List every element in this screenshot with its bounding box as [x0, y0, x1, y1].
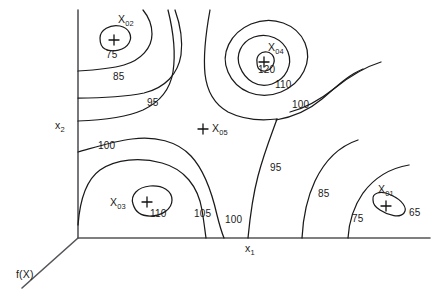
contour-label-100-bottom: 100: [225, 215, 242, 225]
x-axis-label: x1: [245, 243, 255, 257]
contour-105-x03: [78, 160, 206, 238]
contour-label-85-x02: 85: [113, 72, 125, 82]
marker-x01: [381, 201, 391, 211]
contour-label-95-x02: 95: [147, 98, 159, 108]
contour-label-100-x04: 100: [292, 100, 309, 110]
point-label-x02-sub: 02: [125, 19, 133, 28]
contour-label-75-right: 75: [352, 214, 364, 224]
marker-x03: [142, 197, 152, 207]
point-label-x04: X04: [268, 42, 284, 56]
x-axis-label-sub: 1: [250, 248, 254, 257]
y-axis-label-sub: 2: [60, 125, 64, 134]
contour-plot-canvas: [0, 0, 443, 300]
point-label-x02: X02: [118, 14, 134, 28]
contour-label-110-x03: 110: [150, 209, 167, 219]
point-label-x04-sub: 04: [275, 47, 283, 56]
point-label-x05: X05: [212, 123, 228, 137]
contour-label-85-right: 85: [318, 189, 330, 199]
point-label-x03: X03: [110, 197, 126, 211]
contour-75-right: [348, 165, 409, 238]
contour-label-65-x01: 65: [409, 208, 421, 218]
contour-105-x04: [225, 20, 307, 95]
contour-plot-figure: X02 X04 X05 X03 X01 75 85 95 120 110 100…: [0, 0, 443, 300]
contour-75-x02: [100, 26, 131, 51]
point-label-x05-sub: 05: [219, 128, 227, 137]
contour-label-120-x04: 120: [258, 65, 275, 75]
contour-lines-group: [78, 10, 409, 238]
marker-x05: [198, 124, 208, 134]
point-label-x03-sub: 03: [117, 202, 125, 211]
contour-label-110-x04: 110: [275, 80, 292, 90]
contour-label-105-x03: 105: [194, 209, 211, 219]
marker-x02: [109, 35, 119, 45]
z-axis-label: f(X): [16, 269, 34, 280]
y-axis-label: x2: [55, 120, 65, 134]
point-label-x01-sub: 01: [385, 189, 393, 198]
contour-100-x03: [78, 138, 224, 238]
z-axis-line: [22, 238, 78, 288]
contour-label-75-x02: 75: [106, 50, 118, 60]
contour-label-95-right: 95: [270, 163, 282, 173]
point-markers-group: [109, 35, 391, 211]
point-label-x01: X01: [378, 184, 394, 198]
contour-95-right: [248, 119, 277, 238]
contour-label-100-x03: 100: [98, 141, 115, 151]
